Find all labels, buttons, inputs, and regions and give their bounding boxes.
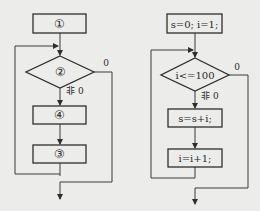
left-box-body-label: ④ (54, 108, 65, 122)
right-body-label: s=s+i; (178, 113, 212, 124)
left-true-label: 非 0 (66, 85, 84, 96)
left-box-1-label: ① (54, 17, 65, 31)
left-box-step-label: ③ (54, 147, 65, 161)
flowcharts: ① ② 0 非 0 ④ ③ s=0; i=1; i<=100 0 非 0 s=s… (0, 0, 260, 211)
right-true-label: 非 0 (201, 90, 219, 101)
left-condition-label: ② (55, 65, 66, 79)
left-flowchart: ① ② 0 非 0 ④ ③ (15, 14, 112, 199)
right-flowchart: s=0; i=1; i<=100 0 非 0 s=s+i; i=i+1; (151, 14, 248, 204)
right-condition-label: i<=100 (175, 70, 214, 81)
right-step-label: i=i+1; (179, 153, 212, 164)
right-false-label: 0 (234, 62, 240, 72)
left-false-label: 0 (103, 58, 109, 68)
right-init-label: s=0; i=1; (171, 19, 219, 30)
